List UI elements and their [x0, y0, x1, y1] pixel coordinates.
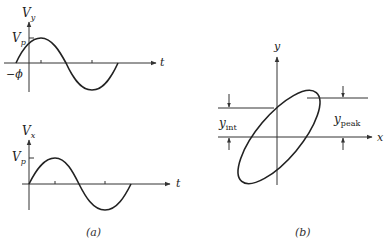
vx-plot: Vx Vp t [12, 124, 181, 210]
y-axis-label: y [273, 40, 281, 53]
caption-a: (a) [86, 226, 101, 239]
t-label-top: t [160, 56, 165, 69]
vy-sine-curve [16, 38, 118, 90]
y-peak-label: ypeak [333, 112, 360, 128]
phase-label: −ϕ [6, 68, 23, 81]
y-int-label: yint [218, 116, 237, 132]
lissajous-plot: y x yint ypeak [218, 40, 384, 196]
x-axis-label: x [377, 131, 384, 144]
vy-plot: Vy Vp −ϕ t [4, 6, 165, 92]
vp-label-top: Vp [12, 31, 26, 47]
t-label-bottom: t [176, 177, 181, 190]
vp-label-bottom: Vp [12, 150, 26, 166]
vx-label: Vx [22, 124, 36, 140]
vy-label: Vy [22, 6, 36, 22]
lissajous-figure: Vy Vp −ϕ t Vx Vp t (a) [0, 0, 386, 241]
caption-b: (b) [295, 226, 311, 239]
